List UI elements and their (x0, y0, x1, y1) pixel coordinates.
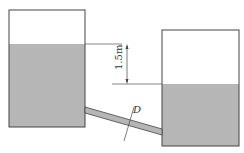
connecting-pipe (85, 107, 162, 135)
right-tank (162, 30, 239, 146)
diameter-label: D (132, 104, 141, 115)
left-tank (9, 10, 85, 127)
head-difference-label: 1.5m (113, 44, 124, 70)
diagram-canvas: 1.5m D (0, 0, 244, 153)
head-dimension-arrow (126, 44, 129, 84)
